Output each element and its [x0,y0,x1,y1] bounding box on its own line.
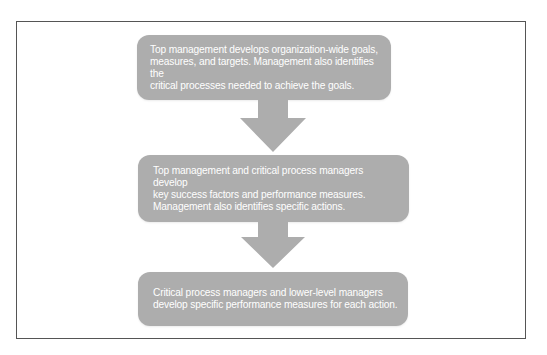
step-box-1: Top management develops organization-wid… [137,35,391,100]
down-arrow-icon [238,100,308,152]
step-3-text: Critical process managers and lower-leve… [153,287,397,311]
down-arrow-icon [238,222,308,270]
step-box-3: Critical process managers and lower-leve… [138,272,408,326]
step-box-2: Top management and critical process mana… [138,155,409,222]
step-2-text: Top management and critical process mana… [153,165,399,213]
step-1-text: Top management develops organization-wid… [150,44,381,92]
